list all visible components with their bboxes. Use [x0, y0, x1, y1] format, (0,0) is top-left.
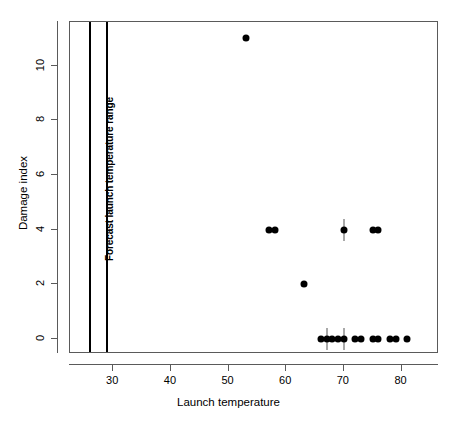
- data-point: [358, 335, 365, 342]
- x-tick: [228, 365, 229, 371]
- forecast-range-lower-line: [89, 22, 91, 352]
- x-tick: [170, 365, 171, 371]
- y-tick-label: 2: [34, 273, 46, 293]
- data-point: [392, 335, 399, 342]
- data-point: [300, 281, 307, 288]
- x-tick-label: 30: [106, 374, 118, 386]
- y-tick-label: 4: [34, 219, 46, 239]
- y-tick: [51, 229, 57, 230]
- data-point: [375, 335, 382, 342]
- forecast-range-annotation: Forecast launch temperature range: [104, 97, 115, 261]
- x-axis-title: Launch temperature: [0, 396, 457, 408]
- x-tick-label: 70: [337, 374, 349, 386]
- scatter-plot-figure: Forecast launch temperature range 304050…: [0, 0, 457, 435]
- x-tick: [112, 365, 113, 371]
- y-tick-label: 0: [34, 328, 46, 348]
- x-tick-label: 80: [394, 374, 406, 386]
- data-point: [340, 226, 347, 233]
- y-tick: [51, 119, 57, 120]
- y-tick: [51, 174, 57, 175]
- y-tick-label: 6: [34, 164, 46, 184]
- data-layer: [70, 22, 437, 352]
- y-axis-line: [57, 21, 58, 353]
- y-tick-label: 10: [34, 55, 46, 75]
- x-tick: [285, 365, 286, 371]
- data-point: [340, 335, 347, 342]
- x-tick: [343, 365, 344, 371]
- y-tick: [51, 283, 57, 284]
- x-tick: [401, 365, 402, 371]
- y-tick: [51, 338, 57, 339]
- x-tick-label: 60: [279, 374, 291, 386]
- data-point: [242, 35, 249, 42]
- data-point: [375, 226, 382, 233]
- y-tick: [51, 65, 57, 66]
- data-point: [404, 335, 411, 342]
- y-axis-title: Damage index: [17, 123, 29, 263]
- data-point: [271, 226, 278, 233]
- y-tick-label: 8: [34, 109, 46, 129]
- x-tick-label: 40: [164, 374, 176, 386]
- plot-panel: Forecast launch temperature range: [69, 21, 438, 353]
- x-axis-line: [69, 364, 438, 365]
- x-tick-label: 50: [221, 374, 233, 386]
